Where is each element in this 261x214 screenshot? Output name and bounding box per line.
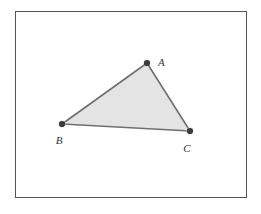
vertex-dot-a[interactable] bbox=[144, 60, 150, 66]
vertex-dot-b[interactable] bbox=[59, 121, 65, 127]
vertex-label-b: B bbox=[56, 134, 63, 146]
vertex-label-a: A bbox=[157, 56, 165, 68]
vertex-dot-c[interactable] bbox=[187, 128, 193, 134]
figure-canvas: A B C bbox=[0, 0, 261, 214]
vertex-marker-c[interactable] bbox=[185, 126, 196, 137]
triangle-diagram: A B C bbox=[0, 0, 261, 214]
vertex-marker-b[interactable] bbox=[57, 119, 68, 130]
vertex-marker-a[interactable] bbox=[142, 58, 153, 69]
vertex-label-c: C bbox=[183, 142, 191, 154]
